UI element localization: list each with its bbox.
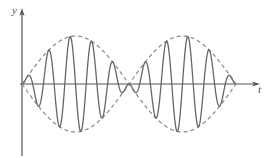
beat-wave-figure: [0, 0, 275, 158]
y-axis-label: y: [12, 4, 17, 16]
modulated-wave: [22, 37, 236, 132]
t-axis-label: t: [258, 83, 261, 95]
